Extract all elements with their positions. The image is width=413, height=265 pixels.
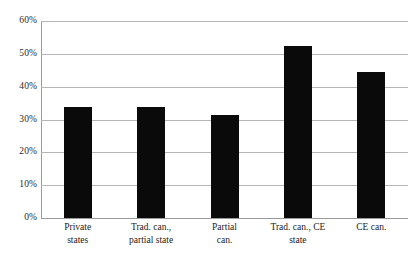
x-axis-tick-label-line: state [261, 234, 334, 247]
y-axis-tick-label: 60% [3, 16, 37, 26]
bar [211, 115, 239, 218]
gridline [41, 21, 408, 22]
x-axis-tick-label: Partialcan. [188, 221, 261, 246]
x-axis-tick-label-line: states [41, 234, 114, 247]
bar [284, 46, 312, 218]
y-axis-tick-label: 50% [3, 49, 37, 59]
x-axis-tick-label-line: Private [41, 221, 114, 234]
bar [357, 72, 385, 218]
x-axis-tick-label-line: Trad. can., [114, 221, 187, 234]
x-axis-line [41, 218, 408, 219]
x-axis-tick-label-line: Partial [188, 221, 261, 234]
x-axis-tick-label: CE can. [335, 221, 408, 234]
y-axis-tick-label: 20% [3, 147, 37, 157]
x-axis-tick-label-line: partial state [114, 234, 187, 247]
y-axis-tick-label: 10% [3, 180, 37, 190]
y-axis-tick-label: 30% [3, 115, 37, 125]
y-axis-tick-label: 0% [3, 213, 37, 223]
bar [64, 107, 92, 218]
x-axis-tick-label-line: CE can. [335, 221, 408, 234]
x-axis-tick-label: Privatestates [41, 221, 114, 246]
gridline [41, 87, 408, 88]
y-axis-tick-labels: 0%10%20%30%40%50%60% [0, 0, 37, 265]
x-axis-tick-label: Trad. can.,partial state [114, 221, 187, 246]
gridline [41, 54, 408, 55]
x-axis-tick-labels: PrivatestatesTrad. can.,partial statePar… [41, 221, 408, 265]
plot-area [41, 21, 408, 218]
x-axis-tick-label-line: can. [188, 234, 261, 247]
x-axis-tick-label-line: Trad. can., CE [261, 221, 334, 234]
bar-chart: 0%10%20%30%40%50%60% PrivatestatesTrad. … [0, 0, 413, 265]
x-axis-tick-label: Trad. can., CEstate [261, 221, 334, 246]
y-axis-tick-label: 40% [3, 82, 37, 92]
bar [137, 107, 165, 218]
